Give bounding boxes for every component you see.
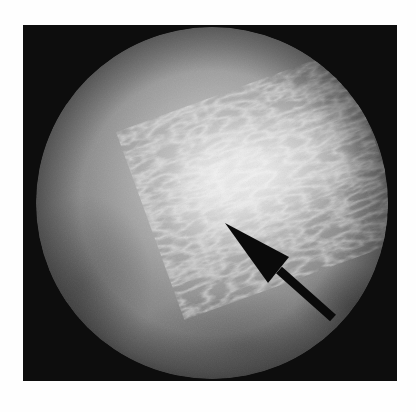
image-canvas: Grayscale endoscopic view with black arr… <box>0 0 416 412</box>
endoscopic-view <box>23 25 397 381</box>
endoscopic-frame <box>23 25 397 381</box>
